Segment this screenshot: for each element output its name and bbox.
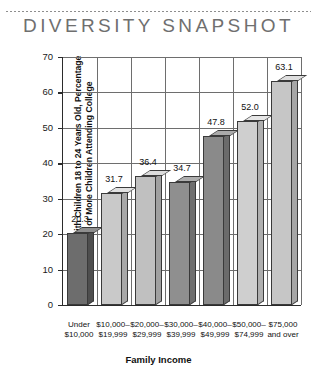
gridline-horizontal bbox=[63, 128, 301, 129]
y-axis-tick-mark bbox=[58, 128, 63, 129]
bar-2 bbox=[101, 193, 122, 305]
y-axis-tick-mark bbox=[58, 270, 63, 271]
gridline-vertical bbox=[233, 57, 234, 305]
bar-side-face bbox=[224, 132, 230, 305]
bar-front-face bbox=[237, 121, 258, 305]
gridline-horizontal bbox=[63, 305, 301, 306]
gridline-vertical bbox=[267, 57, 268, 305]
bar-front-face bbox=[101, 193, 122, 305]
bar-front-face bbox=[271, 81, 292, 305]
chart-canvas: For Families with Children 18 to 24 Year… bbox=[0, 0, 317, 383]
y-axis-tick-mark bbox=[58, 163, 63, 164]
x-axis-label: Family Income bbox=[0, 354, 317, 365]
gridline-vertical bbox=[301, 57, 302, 305]
y-axis-tick-label: 60 bbox=[31, 87, 53, 97]
bar-5 bbox=[203, 136, 224, 305]
bar-side-face bbox=[88, 229, 94, 305]
bar-side-face bbox=[122, 189, 128, 305]
bar-4 bbox=[169, 182, 190, 305]
y-axis-tick-label: 20 bbox=[31, 229, 53, 239]
bar-7 bbox=[271, 81, 292, 305]
y-axis-tick-label: 10 bbox=[31, 265, 53, 275]
x-axis-tick-label: $75,000and over bbox=[260, 320, 306, 340]
y-axis-tick-label: 0 bbox=[31, 300, 53, 310]
bar-front-face bbox=[135, 176, 156, 305]
y-axis-tick-label: 30 bbox=[31, 194, 53, 204]
bar-side-face bbox=[190, 178, 196, 305]
bar-1 bbox=[67, 233, 88, 305]
bar-value-label: 36.4 bbox=[131, 158, 166, 167]
bar-value-label: 52.0 bbox=[233, 103, 268, 112]
bar-front-face bbox=[203, 136, 224, 305]
bar-side-face bbox=[258, 117, 264, 305]
y-axis-tick-label: 50 bbox=[31, 123, 53, 133]
bar-side-face bbox=[292, 78, 298, 305]
y-axis-tick-label: 70 bbox=[31, 52, 53, 62]
bar-side-face bbox=[156, 172, 162, 305]
gridline-vertical bbox=[199, 57, 200, 305]
gridline-horizontal bbox=[63, 57, 301, 58]
gridline-horizontal bbox=[63, 92, 301, 93]
y-axis-tick-mark bbox=[58, 234, 63, 235]
x-axis-tick-label-line1: Under bbox=[68, 320, 90, 329]
bar-value-label: 63.1 bbox=[267, 63, 302, 72]
bar-value-label: 31.7 bbox=[97, 175, 132, 184]
bar-3 bbox=[135, 176, 156, 305]
bar-front-face bbox=[169, 182, 190, 305]
bar-value-label: 47.8 bbox=[199, 118, 234, 127]
gridline-vertical bbox=[165, 57, 166, 305]
y-axis-tick-mark bbox=[58, 57, 63, 58]
y-axis-tick-label: 40 bbox=[31, 158, 53, 168]
bar-6 bbox=[237, 121, 258, 305]
y-axis-tick-mark bbox=[58, 92, 63, 93]
x-axis-tick-label-line1: $75,000 bbox=[269, 320, 298, 329]
x-axis-tick-label-line2: and over bbox=[267, 330, 298, 339]
bar-value-label: 34.7 bbox=[165, 164, 200, 173]
bar-value-label: 20.3 bbox=[63, 215, 98, 224]
bar-front-face bbox=[67, 233, 88, 305]
y-axis-tick-mark bbox=[58, 305, 63, 306]
y-axis-tick-mark bbox=[58, 199, 63, 200]
